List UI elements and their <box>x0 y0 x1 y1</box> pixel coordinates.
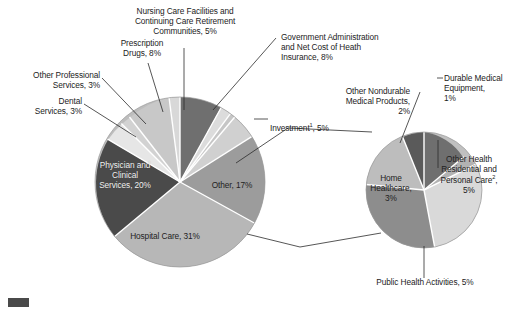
label-home-healthcare: Home Healthcare, 3% <box>362 173 420 204</box>
label-investment: Investment1, 5% <box>270 113 354 133</box>
label-ohr-text: Other Health Residential and Personal Ca… <box>441 154 497 184</box>
label-durable-medical-equipment: Durable Medical Equipment, 1% <box>444 73 520 104</box>
label-government-administration: Government Administration and Net Cost o… <box>281 32 415 63</box>
label-other-professional-services: Other Professional Services, 3% <box>6 70 100 90</box>
footnote-block <box>8 298 29 307</box>
label-hospital-care: Hospital Care, 31% <box>110 231 220 241</box>
label-nursing-care: Nursing Care Facilities and Continuing C… <box>122 6 248 37</box>
label-physician-clinical-services: Physician and Clinical Services, 20% <box>82 160 168 191</box>
label-prescription-drugs: Prescription Drugs, 8% <box>105 38 179 58</box>
label-other-slice: Other, 17% <box>196 180 268 190</box>
pie-chart-figure: Nursing Care Facilities and Continuing C… <box>0 0 521 315</box>
label-dental-services: Dental Services, 3% <box>6 96 82 116</box>
label-investment-value: , 5% <box>313 123 329 133</box>
label-public-health-activities: Public Health Activities, 5% <box>357 277 493 287</box>
label-investment-text: Investment <box>270 123 310 133</box>
label-other-health-residential-personal-care: Other Health Residential and Personal Ca… <box>426 144 512 195</box>
